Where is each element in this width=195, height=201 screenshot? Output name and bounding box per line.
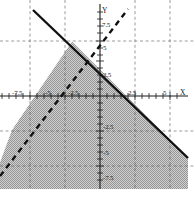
shaded-solution-region bbox=[0, 42, 188, 190]
y-tick-label-neg-5: -5 bbox=[103, 150, 108, 157]
x-axis-name-label: X bbox=[180, 89, 185, 97]
x-tick-label-2-5: 2.5 bbox=[128, 90, 136, 97]
y-tick-label-2-5: 2.5 bbox=[103, 72, 111, 79]
x-tick-label-neg-7-5: -7.5 bbox=[12, 90, 22, 97]
y-tick-label-5: 5 bbox=[103, 45, 106, 52]
x-tick-label-neg-5: -5 bbox=[45, 90, 50, 97]
inequality-graph-figure: Y X 7.5 5 2.5 -2.5 -5 -7.5 -7.5 -5 -2.5 … bbox=[0, 0, 195, 201]
plot-area bbox=[0, 0, 195, 201]
y-tick-label-neg-2-5: -2.5 bbox=[103, 124, 113, 131]
y-axis-name-label: Y bbox=[102, 7, 107, 15]
x-tick-label-neg-2-5: -2.5 bbox=[68, 90, 78, 97]
y-tick-label-7-5: 7.5 bbox=[102, 22, 110, 29]
y-tick-label-neg-7-5: -7.5 bbox=[103, 175, 113, 182]
x-tick-label-5: 5 bbox=[163, 90, 166, 97]
